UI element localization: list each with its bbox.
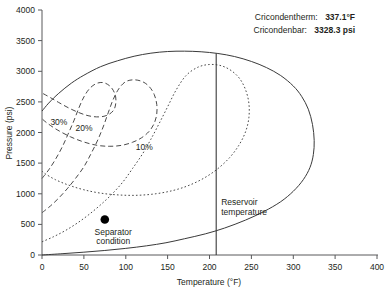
cricondentherm-value: 337.1°F: [325, 12, 355, 22]
y-tick-label: 1500: [16, 158, 35, 168]
y-tick-label: 3000: [16, 66, 35, 76]
y-axis-title: Pressure (psi): [4, 106, 14, 159]
x-axis-ticks: [42, 255, 377, 259]
x-axis-title: Temperature (°F): [177, 277, 242, 287]
quality-line-10-label: 10%: [136, 142, 153, 152]
separator-condition-label-line2: condition: [96, 236, 130, 246]
separator-condition-marker: [101, 215, 110, 224]
quality-line-10: [42, 64, 249, 241]
phase-envelope-curve: [42, 51, 314, 255]
x-tick-label: 100: [119, 262, 133, 272]
x-tick-label: 250: [244, 262, 258, 272]
reservoir-temperature-label-line1: Reservoir: [221, 197, 258, 207]
y-axis-tick-labels: 0 500 1000 1500 2000 2500 3000 3500 4000: [16, 5, 35, 260]
y-tick-label: 4000: [16, 5, 35, 15]
series-group: [42, 51, 314, 255]
y-tick-label: 500: [21, 219, 35, 229]
x-tick-label: 150: [161, 262, 175, 272]
y-axis-ticks: [38, 10, 42, 255]
quality-line-30-label: 30%: [50, 117, 67, 127]
x-tick-label: 350: [328, 262, 342, 272]
reservoir-temperature-label-line2: temperature: [221, 207, 267, 217]
y-tick-label: 2500: [16, 97, 35, 107]
phase-envelope-chart: 0 500 1000 1500 2000 2500 3000 3500 4000…: [0, 0, 386, 294]
x-tick-label: 300: [286, 262, 300, 272]
x-tick-label: 50: [79, 262, 89, 272]
annotation-block: Cricondentherm: 337.1°F Cricondenbar: 33…: [254, 6, 355, 36]
y-tick-label: 0: [30, 250, 35, 260]
quality-line-20-label: 20%: [76, 123, 93, 133]
x-tick-label: 200: [202, 262, 216, 272]
x-tick-label: 400: [370, 262, 384, 272]
x-axis-tick-labels: 0 50 100 150 200 250 300 350 400: [40, 262, 385, 272]
cricondentherm-annotation: Cricondentherm: 337.1°F: [255, 6, 355, 23]
chart-canvas: 0 500 1000 1500 2000 2500 3000 3500 4000…: [0, 0, 386, 294]
y-tick-label: 2000: [16, 128, 35, 138]
cricondenbar-label: Cricondenbar:: [254, 25, 307, 35]
y-tick-label: 1000: [16, 189, 35, 199]
y-tick-label: 3500: [16, 36, 35, 46]
cricondenbar-value: 3328.3 psi: [314, 25, 355, 35]
x-tick-label: 0: [40, 262, 45, 272]
